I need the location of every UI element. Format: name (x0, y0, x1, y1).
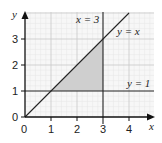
label-y-equals-1: y = 1 (126, 77, 150, 89)
x-tick-0: 0 (21, 123, 27, 135)
label-y-equals-x: y = x (116, 25, 140, 37)
x-tick-1: 1 (48, 123, 54, 135)
y-axis-label: y (11, 8, 17, 20)
x-tick-4: 4 (126, 123, 132, 135)
graph: 0 1 2 3 4 0 1 2 3 x y x = 3 y = x y = 1 (0, 0, 162, 143)
y-tick-3: 3 (12, 33, 18, 45)
y-tick-1: 1 (12, 85, 18, 97)
x-tick-3: 3 (100, 123, 106, 135)
label-x-equals-3: x = 3 (75, 13, 100, 25)
y-tick-2: 2 (12, 59, 18, 71)
y-tick-0: 0 (12, 111, 18, 123)
x-axis-label: x (148, 120, 154, 132)
x-tick-2: 2 (74, 123, 80, 135)
